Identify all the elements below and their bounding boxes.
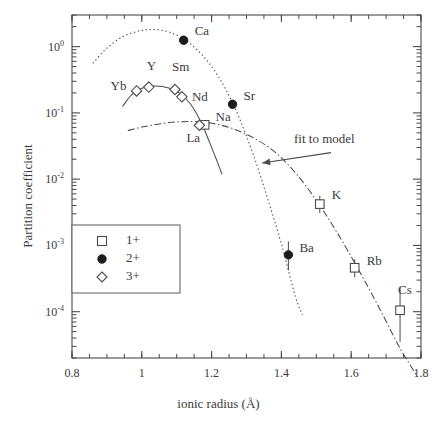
x-tick-label: 1.8 — [401, 366, 437, 381]
legend-label-2plus: 2+ — [126, 250, 140, 266]
point-label-y: Y — [147, 58, 156, 74]
fit-to-model-annotation: fit to model — [294, 131, 355, 147]
data-point-nd — [177, 92, 187, 102]
data-point-sr — [228, 100, 236, 108]
y-tick-label: 10-4 — [8, 304, 64, 320]
point-label-cs: Cs — [398, 282, 412, 298]
x-tick-label: 1.4 — [261, 366, 301, 381]
x-tick-label: 0.8 — [52, 366, 92, 381]
x-tick-label: 1.2 — [192, 366, 232, 381]
annotation-arrowhead — [262, 159, 270, 166]
data-point-rb — [350, 263, 359, 272]
x-tick-label: 1.6 — [331, 366, 371, 381]
y-tick-label: 10-2 — [8, 171, 64, 187]
point-label-rb: Rb — [367, 253, 382, 269]
annotation-arrow — [262, 153, 331, 163]
y-tick-label: 10-3 — [8, 237, 64, 253]
point-label-ba: Ba — [299, 240, 313, 256]
x-tick-label: 1 — [122, 366, 162, 381]
point-label-sr: Sr — [244, 88, 256, 104]
y-tick-label: 10-1 — [8, 105, 64, 121]
legend-marker-open-square — [98, 237, 107, 246]
point-label-ca: Ca — [195, 23, 209, 39]
point-label-k: K — [332, 187, 341, 203]
legend-label-1plus: 1+ — [126, 232, 140, 248]
x-axis-title: ionic radius (Å) — [0, 396, 437, 412]
data-point-ca — [179, 36, 187, 44]
legend-marker-filled-circle — [98, 255, 106, 263]
legend-label-3plus: 3+ — [126, 268, 140, 284]
data-point-yb — [131, 86, 141, 96]
figure-panel: Partition coefficient ionic radius (Å) f… — [0, 0, 437, 422]
point-label-na: Na — [216, 109, 231, 125]
data-point-y — [144, 82, 154, 92]
data-point-ba — [284, 251, 292, 259]
plot-canvas — [0, 0, 437, 422]
point-label-nd: Nd — [192, 89, 208, 105]
point-label-yb: Yb — [111, 78, 127, 94]
data-point-cs — [396, 306, 405, 315]
y-tick-label: 100 — [8, 39, 64, 55]
point-label-la: La — [186, 130, 200, 146]
point-label-sm: Sm — [172, 59, 189, 75]
data-point-k — [315, 200, 324, 209]
